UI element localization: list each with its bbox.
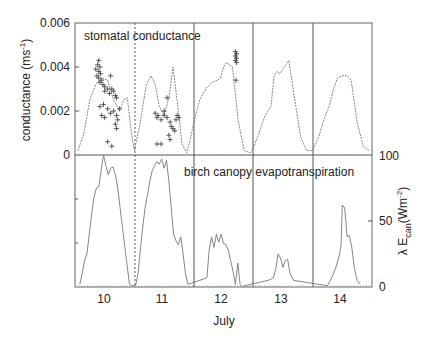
bottom-panel-title: birch canopy evapotranspiration bbox=[184, 165, 354, 179]
x-axis-title: July bbox=[213, 314, 234, 328]
conductance-measured-markers bbox=[93, 49, 239, 149]
day-label-11: 11 bbox=[156, 292, 169, 306]
left-y-axis-title: conductance (ms-1) bbox=[18, 39, 33, 142]
left-tick-0.006: 0.006 bbox=[40, 16, 70, 30]
left-tick-0.004: 0.004 bbox=[40, 60, 70, 74]
day-label-12: 12 bbox=[214, 292, 228, 306]
top-panel-title: stomatal conductance bbox=[84, 29, 201, 43]
right-tick-0: 0 bbox=[379, 280, 386, 294]
left-tick-0: 0 bbox=[63, 148, 70, 162]
right-tick-100: 100 bbox=[379, 149, 399, 163]
right-tick-50: 50 bbox=[379, 214, 393, 228]
left-tick-0.002: 0.002 bbox=[40, 104, 70, 118]
day-label-10: 10 bbox=[97, 292, 111, 306]
day-label-14: 14 bbox=[333, 292, 347, 306]
conductance-model-line bbox=[78, 60, 369, 152]
chart-canvas: 0.006 0.004 0.002 0 100 50 0 conductance… bbox=[0, 0, 430, 339]
right-y-axis-title: λ Ecan(Wm-2) bbox=[395, 187, 413, 255]
day-label-13: 13 bbox=[274, 292, 288, 306]
